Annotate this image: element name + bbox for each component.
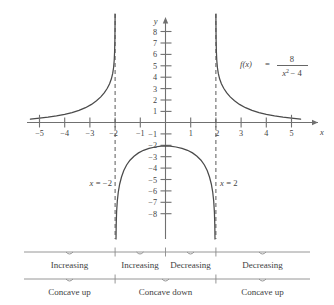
x-tick-label: −4: [60, 129, 69, 138]
x-tick-label: −1: [136, 129, 145, 138]
right-asymptote-label: x= 2: [219, 178, 238, 188]
y-tick-label: −2: [148, 141, 157, 150]
right-asymptote-label-rest: = 2: [226, 178, 237, 188]
y-tick-label: 1: [153, 107, 157, 116]
y-tick-labels: 8 7 6 5 4 3 2 1 −1 −2 −3 −4 −5 −6 −7 −8: [148, 28, 157, 219]
monotonicity-segment-label: Decreasing: [170, 260, 211, 270]
left-asymptote-label-rest: = −2: [96, 178, 112, 188]
x-tick-label: −2: [109, 129, 118, 138]
y-tick-label: 2: [153, 96, 157, 105]
x-tick-label: 1: [189, 129, 193, 138]
y-tick-label: −8: [148, 210, 157, 219]
axes-group: [27, 17, 318, 239]
y-tick-label: −7: [148, 198, 157, 207]
y-tick-label: 5: [153, 62, 157, 71]
function-label-lhs: f(x): [240, 59, 252, 69]
x-tick-label: 5: [289, 129, 293, 138]
function-label-numerator: 8: [290, 54, 294, 64]
monotonicity-segment-label: Increasing: [121, 260, 159, 270]
monotonicity-row: Increasing Increasing Decreasing Decreas…: [24, 248, 310, 271]
right-asymptote-label-var: x: [219, 178, 224, 188]
function-label: f(x) = 8 x2− 4: [240, 54, 308, 78]
monotonicity-segment-label: Increasing: [51, 260, 89, 270]
curve-branch-right: [216, 14, 301, 119]
function-label-denominator: x2− 4: [281, 68, 302, 78]
y-tick-label: 6: [153, 50, 157, 59]
concavity-segment-label: Concave up: [48, 287, 91, 297]
concavity-segment-label: Concave down: [139, 287, 193, 297]
left-asymptote-label-var: x: [89, 178, 94, 188]
concavity-segment-label: Concave up: [241, 287, 284, 297]
y-tick-label: 8: [153, 28, 157, 37]
y-tick-label: 4: [153, 73, 157, 82]
x-axis-arrow: [312, 120, 318, 125]
graph-svg: −5 −4 −3 −2 −1 1 2 3 4 5: [0, 0, 334, 305]
y-tick-label: −6: [148, 187, 157, 196]
x-tick-label: −5: [35, 129, 44, 138]
y-axis-arrow: [163, 17, 168, 24]
monotonicity-segment-label: Decreasing: [242, 260, 283, 270]
x-tick-label: −3: [86, 129, 95, 138]
y-tick-label: 7: [153, 39, 157, 48]
y-tick-label: −5: [148, 176, 157, 185]
x-axis-label: x: [319, 127, 324, 137]
y-tick-label: −1: [148, 130, 157, 139]
left-asymptote-label: x= −2: [89, 178, 112, 188]
y-tick-label: −4: [148, 164, 157, 173]
y-tick-label: 3: [153, 85, 157, 94]
curve-branch-left: [30, 14, 115, 119]
x-tick-label: 4: [264, 129, 268, 138]
function-label-equals: =: [265, 59, 270, 69]
y-tick-label: −3: [148, 153, 157, 162]
y-axis-label: y: [153, 16, 158, 26]
figure-rational-function-graph: −5 −4 −3 −2 −1 1 2 3 4 5: [0, 0, 334, 305]
x-tick-label: 3: [239, 129, 243, 138]
concavity-row: Concave up Concave down Concave up: [24, 275, 310, 298]
